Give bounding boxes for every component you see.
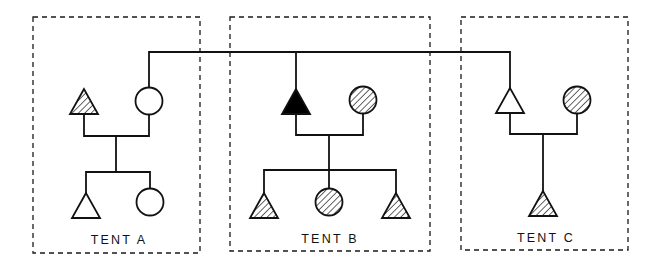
marriage-line-tent-b — [296, 113, 363, 135]
tent-c-label: TENT C — [517, 231, 575, 245]
male-hatched-icon — [529, 191, 557, 216]
male-solid-icon — [282, 89, 310, 114]
male-hatched-icon — [70, 89, 98, 114]
female-open-icon — [137, 189, 164, 216]
pedigree-diagram: TENT A TENT B TENT C — [0, 0, 661, 269]
male-open-icon — [496, 88, 524, 113]
male-hatched-icon — [250, 193, 278, 218]
sibling-link-line — [149, 52, 510, 89]
male-open-icon — [72, 193, 100, 218]
children-line-tent-a — [86, 172, 150, 193]
male-hatched-icon — [382, 193, 410, 218]
female-hatched-icon — [564, 87, 591, 114]
tent-a-label: TENT A — [91, 233, 148, 247]
connection-lines — [84, 52, 577, 193]
marriage-line-tent-c — [510, 113, 577, 134]
individuals — [70, 87, 591, 219]
marriage-line-tent-a — [84, 114, 149, 136]
female-hatched-icon — [316, 189, 343, 216]
tent-labels: TENT A TENT B TENT C — [91, 231, 575, 247]
tent-b-label: TENT B — [301, 232, 358, 246]
female-open-icon — [136, 88, 163, 115]
female-hatched-icon — [350, 87, 377, 114]
